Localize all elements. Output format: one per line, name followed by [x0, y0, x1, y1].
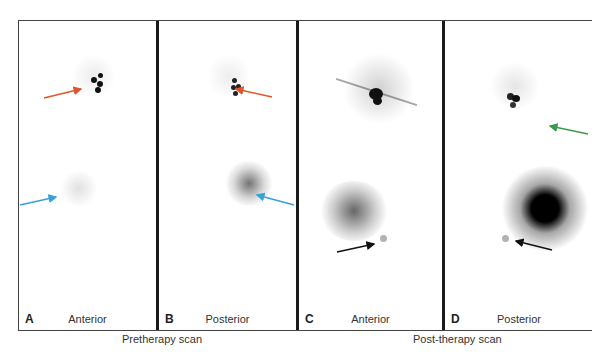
arrow-green-d	[550, 126, 588, 134]
caption-pretherapy: Pretherapy scan	[122, 333, 202, 345]
arrow-blue-a	[20, 197, 56, 205]
arrow-orange-a	[44, 89, 81, 98]
annotation-arrows	[0, 0, 610, 357]
caption-posttherapy: Post-therapy scan	[413, 333, 502, 345]
arrow-orange-b	[236, 89, 272, 97]
arrow-black-d	[516, 241, 552, 250]
arrow-black-c	[337, 244, 374, 252]
arrow-blue-b	[257, 195, 294, 205]
